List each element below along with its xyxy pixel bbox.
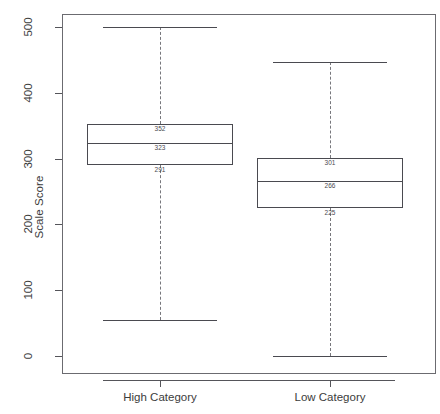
y-tick-mark	[55, 356, 62, 357]
y-tick-label: 500	[21, 5, 35, 49]
y-tick-label: 300	[21, 137, 35, 181]
y-tick-label: 400	[21, 71, 35, 115]
y-tick-mark	[55, 93, 62, 94]
upper-whisker-line	[330, 62, 331, 158]
upper-whisker-line	[160, 27, 161, 124]
y-tick-label: 0	[21, 334, 35, 378]
box-plot-chart: Scale Score 0100200300400500 35232329130…	[0, 0, 440, 414]
x-axis-line	[103, 380, 395, 381]
y-tick-mark	[55, 27, 62, 28]
y-tick-mark	[55, 224, 62, 225]
q3-value-label: 352	[155, 125, 166, 133]
x-axis-label-low-category: Low Category	[295, 391, 366, 403]
median-value-label: 323	[155, 144, 166, 152]
x-axis-label-high-category: High Category	[123, 391, 197, 403]
x-tick-mark	[330, 380, 331, 387]
lower-whisker-cap	[103, 320, 217, 321]
q1-value-label: 225	[325, 209, 336, 217]
upper-whisker-cap	[273, 62, 387, 63]
lower-whisker-line	[330, 208, 331, 356]
upper-whisker-cap	[103, 27, 217, 28]
lower-whisker-line	[160, 165, 161, 320]
y-tick-label: 200	[21, 202, 35, 246]
q1-value-label: 291	[155, 166, 166, 174]
lower-whisker-cap	[273, 356, 387, 357]
q3-value-label: 301	[325, 159, 336, 167]
y-tick-mark	[55, 290, 62, 291]
x-tick-mark	[160, 380, 161, 387]
median-value-label: 266	[325, 182, 336, 190]
y-tick-label: 100	[21, 268, 35, 312]
y-tick-mark	[55, 159, 62, 160]
